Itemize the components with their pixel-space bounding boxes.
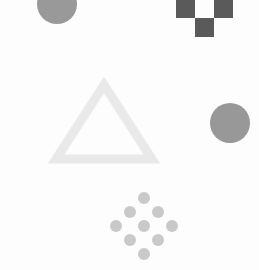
lattice-dot-1 xyxy=(124,206,136,218)
checkerboard-cell-0 xyxy=(176,0,195,18)
lattice-dot-7 xyxy=(152,234,164,246)
shapes-svg xyxy=(0,0,259,270)
lattice-dot-8 xyxy=(138,248,150,260)
checkerboard-cell-2 xyxy=(195,18,214,37)
lattice-dot-3 xyxy=(110,220,122,232)
right-circle-shape xyxy=(210,103,250,143)
lattice-dot-5 xyxy=(166,220,178,232)
lattice-dot-0 xyxy=(138,192,150,204)
shape-canvas xyxy=(0,0,259,270)
lattice-dot-4 xyxy=(138,220,150,232)
lattice-dot-6 xyxy=(124,234,136,246)
checkerboard-cell-1 xyxy=(214,0,233,18)
right-circle xyxy=(210,103,250,143)
lattice-dot-2 xyxy=(152,206,164,218)
